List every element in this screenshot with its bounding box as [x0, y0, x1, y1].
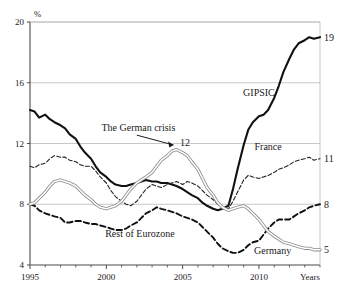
y-tick-label-4: 4 — [20, 260, 25, 270]
annotation-value-12: 12 — [180, 137, 190, 148]
chart-canvas: 48121620% 1995200020052010Years GIPSIC19… — [0, 0, 339, 294]
y-tick-label-8: 8 — [20, 199, 25, 209]
x-tick-label-2010: 2010 — [250, 272, 269, 282]
y-tick-label-16: 16 — [15, 78, 25, 88]
end-label-france: 11 — [324, 153, 334, 164]
y-tick-label-20: 20 — [15, 17, 25, 27]
series-line-germany-inner — [30, 150, 320, 250]
series-label-rest-of-eurozone: Rest of Eurozone — [105, 228, 175, 239]
x-tick-label-2005: 2005 — [174, 272, 193, 282]
end-label-rest-of-eurozone: 8 — [324, 199, 329, 210]
gridlines-group — [30, 22, 320, 204]
annotation-arrow-head — [168, 142, 173, 148]
x-tick-label-1995: 1995 — [21, 272, 40, 282]
y-tick-label-12: 12 — [15, 139, 24, 149]
series-label-germany: Germany — [254, 245, 291, 256]
series-line-germany — [30, 150, 320, 250]
end-label-germany: 5 — [324, 244, 329, 255]
annotation-german-crisis: The German crisis — [101, 122, 175, 133]
unemployment-rate-chart: 48121620% 1995200020052010Years GIPSIC19… — [0, 0, 339, 294]
x-axis-title: Years — [300, 272, 321, 282]
series-label-gipsic: GIPSIC — [243, 87, 275, 98]
series-label-france: France — [254, 141, 282, 152]
x-tick-label-2000: 2000 — [97, 272, 116, 282]
end-label-gipsic: 19 — [324, 32, 334, 43]
y-axis-unit-label: % — [34, 9, 41, 19]
series-line-france — [30, 156, 320, 209]
x-tick-marks: 1995200020052010Years — [21, 265, 320, 282]
